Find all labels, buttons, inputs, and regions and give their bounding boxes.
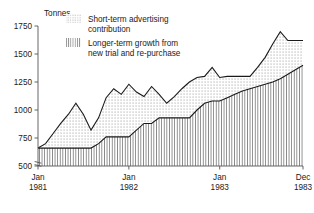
x-tick-label-month: Jan (122, 173, 136, 182)
x-tick-label-year: 1983 (294, 183, 313, 192)
y-tick-label: 750 (18, 134, 32, 143)
x-tick-label-month: Jan (31, 173, 45, 182)
x-tick-label-year: 1981 (29, 183, 48, 192)
x-tick-label-year: 1983 (211, 183, 230, 192)
tonnes-area-chart: 5007501000125015001750 Jan1981Jan1982Jan… (0, 0, 314, 213)
x-axis-ticks (38, 166, 303, 170)
x-tick-label-year: 1982 (120, 183, 139, 192)
y-tick-label: 500 (18, 162, 32, 171)
y-axis: 5007501000125015001750 (14, 22, 42, 171)
y-tick-label: 1500 (14, 50, 33, 59)
x-axis-tick-labels: Jan1981Jan1982Jan1983Dec1983 (29, 173, 313, 192)
x-axis: Jan1981Jan1982Jan1983Dec1983 (29, 166, 313, 192)
chart-container: 5007501000125015001750 Jan1981Jan1982Jan… (0, 0, 314, 213)
legend-swatch-short-term (66, 14, 81, 23)
legend-swatch-longer-term (66, 38, 81, 47)
legend-label-longer-term-line2: new trial and re-purchase (88, 49, 181, 58)
y-tick-label: 1000 (14, 106, 33, 115)
x-tick-label-month: Dec (296, 173, 311, 182)
legend-label-longer-term-line1: Longer-term growth from (88, 39, 178, 48)
legend-label-short-term-line1: Short-term advertising (88, 15, 169, 24)
x-tick-label-month: Jan (213, 173, 227, 182)
legend-label-short-term-line2: contribution (88, 25, 131, 34)
y-tick-label: 1750 (14, 22, 33, 31)
y-tick-label: 1250 (14, 78, 33, 87)
y-axis-tick-labels: 5007501000125015001750 (14, 22, 33, 171)
y-axis-ticks (35, 26, 39, 166)
